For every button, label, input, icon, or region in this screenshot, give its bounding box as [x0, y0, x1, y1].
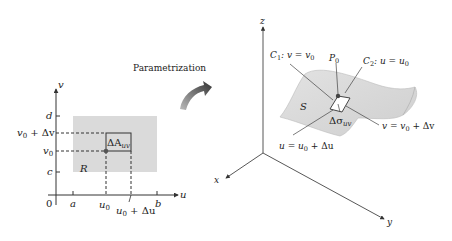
svg-text:u0: u0: [99, 199, 110, 212]
tick-v0-dv: v0 + Δv: [17, 127, 55, 140]
tick-d: d: [46, 110, 52, 121]
surface-label: S: [300, 101, 307, 112]
parametrization-label: Parametrization: [133, 63, 206, 73]
tick-u0: u0: [99, 199, 110, 212]
y-axis: [263, 153, 384, 219]
x-axis-label: x: [214, 175, 219, 185]
tick-u0-du: u0 + Δu: [116, 205, 156, 218]
uv-plane: v u 0 d c v0 + Δv v0 a b u0 u0 + Δu R ΔA…: [17, 79, 186, 218]
tick-c: c: [47, 166, 53, 177]
line-v-label: v = v0 + Δv: [382, 121, 435, 133]
svg-text:P0: P0: [328, 53, 339, 65]
svg-text:v0: v0: [43, 145, 53, 158]
svg-text:u = u0 + Δu: u = u0 + Δu: [279, 141, 334, 153]
parametrization-diagram: v u 0 d c v0 + Δv v0 a b u0 u0 + Δu R ΔA…: [0, 0, 452, 241]
region-label: R: [79, 163, 88, 174]
svg-text:v0 + Δv: v0 + Δv: [17, 127, 55, 140]
curve-c1-label: C1: v = v0: [270, 50, 315, 62]
svg-text:v = v0 + Δv: v = v0 + Δv: [382, 121, 435, 133]
tick-b: b: [155, 198, 161, 209]
x-axis: [226, 153, 263, 178]
u-axis-label: u: [180, 189, 186, 200]
origin-label: 0: [46, 198, 52, 209]
svg-text:C2: u = u0: C2: u = u0: [363, 56, 409, 68]
tick-v0: v0: [43, 145, 53, 158]
svg-text:u0 + Δu: u0 + Δu: [116, 205, 156, 218]
y-axis-label: y: [386, 217, 393, 227]
z-axis-label: z: [259, 16, 265, 26]
curve-c2-label: C2: u = u0: [363, 56, 409, 68]
tick-a: a: [70, 198, 76, 209]
v-axis-label: v: [58, 79, 64, 90]
point-p0: [336, 94, 340, 98]
parametrization-arrow: Parametrization: [133, 63, 212, 110]
line-u-label: u = u0 + Δu: [279, 141, 334, 153]
svg-text:C1: v = v0: C1: v = v0: [270, 50, 315, 62]
xyz-space: z x y S P0 C1: v = v0 C2: u = u0 Δσuv v: [214, 16, 435, 227]
curved-arrow-icon: [180, 81, 212, 110]
point-p0-label: P0: [328, 53, 339, 65]
point-u0-v0: [104, 149, 109, 154]
